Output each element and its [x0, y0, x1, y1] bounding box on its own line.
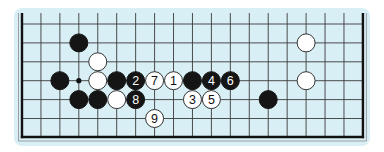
move-number-label: 3 — [189, 93, 196, 107]
black-stone-move-8: 8 — [127, 91, 145, 109]
white-stone-icon — [297, 34, 315, 52]
go-board-diagram: 271468359 — [0, 0, 384, 152]
move-number-label: 5 — [208, 93, 215, 107]
white-stone-icon — [108, 91, 126, 109]
black-stone — [51, 72, 69, 90]
white-stone-move-3: 3 — [183, 91, 201, 109]
white-stone-icon — [297, 72, 315, 90]
move-number-label: 9 — [151, 112, 158, 126]
black-stone — [183, 72, 201, 90]
black-stone — [70, 91, 88, 109]
black-stone-icon — [70, 91, 88, 109]
move-number-label: 2 — [132, 74, 139, 88]
black-stone-icon — [70, 34, 88, 52]
white-stone — [89, 53, 107, 71]
black-stone — [108, 72, 126, 90]
white-stone — [89, 72, 107, 90]
move-number-label: 1 — [170, 74, 177, 88]
black-stone-move-4: 4 — [202, 72, 220, 90]
white-stone — [297, 72, 315, 90]
move-number-label: 4 — [208, 74, 215, 88]
white-stone-move-1: 1 — [165, 72, 183, 90]
move-number-label: 8 — [132, 93, 139, 107]
black-stone-icon — [108, 72, 126, 90]
white-stone-move-7: 7 — [146, 72, 164, 90]
move-number-label: 6 — [227, 74, 234, 88]
black-stone-icon — [259, 91, 277, 109]
black-stone-move-6: 6 — [221, 72, 239, 90]
black-stone-icon — [89, 91, 107, 109]
black-stone-icon — [51, 72, 69, 90]
star-point-icon — [76, 78, 81, 83]
white-stone-icon — [89, 72, 107, 90]
black-stone-icon — [183, 72, 201, 90]
white-stone-move-9: 9 — [146, 110, 164, 128]
move-number-label: 7 — [151, 74, 158, 88]
black-stone — [89, 91, 107, 109]
white-stone-icon — [89, 53, 107, 71]
white-stone — [108, 91, 126, 109]
black-stone — [259, 91, 277, 109]
white-stone-move-5: 5 — [202, 91, 220, 109]
white-stone — [297, 34, 315, 52]
black-stone-move-2: 2 — [127, 72, 145, 90]
star-points — [76, 78, 81, 83]
black-stone — [70, 34, 88, 52]
